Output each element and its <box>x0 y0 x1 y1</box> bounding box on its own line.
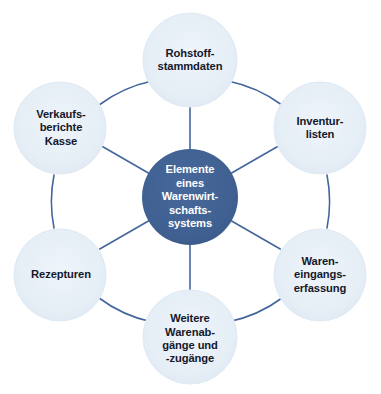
arc-verkaufs-to-rohstoff <box>99 81 152 105</box>
arc-rezepturen-to-verkaufs <box>51 175 54 228</box>
arc-weitere-to-rezepturen <box>99 298 152 322</box>
arc-wareneingang-to-weitere <box>228 298 282 322</box>
node-circle-wareneingangserfassung <box>274 229 366 321</box>
spoke-hub-wareneingangserfassung <box>232 221 281 249</box>
node-circle-rohstoffstammdaten <box>143 13 237 107</box>
node-circle-weitere-warenabgaenge <box>143 290 237 384</box>
spoke-hub-verkaufsberichte-kasse <box>100 145 149 173</box>
hub-circle <box>142 149 238 245</box>
spoke-hub-inventurlisten <box>232 145 281 173</box>
arc-inventur-to-wareneingang <box>327 175 330 228</box>
node-circle-rezepturen <box>14 229 106 321</box>
node-circle-inventurlisten <box>274 82 366 174</box>
arc-rohstoff-to-inventur <box>228 81 282 105</box>
node-circle-verkaufsberichte-kasse <box>14 82 106 174</box>
diagram-canvas <box>0 0 381 394</box>
radial-diagram: Elemente eines Warenwirt- schafts- syste… <box>0 0 381 394</box>
spoke-hub-rezepturen <box>100 221 149 249</box>
